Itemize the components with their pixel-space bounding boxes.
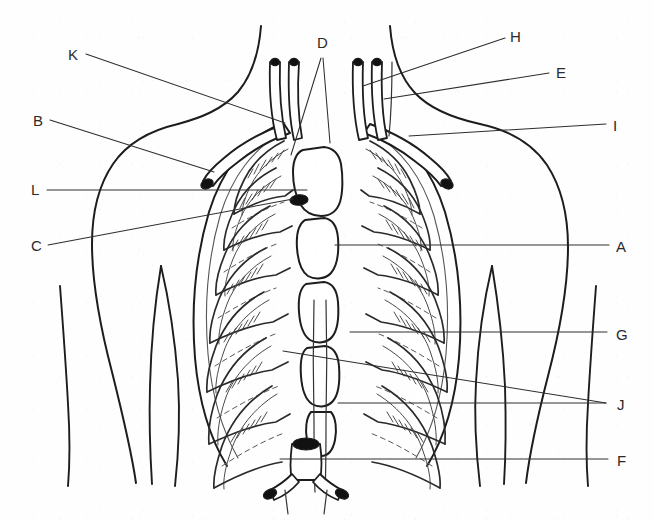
left-vessel-inner-lumen — [290, 58, 299, 65]
leader-line-h — [363, 38, 505, 86]
right-shoulder-outline — [480, 124, 568, 483]
left-outer-arm-edge — [60, 286, 70, 486]
label-k[interactable]: K — [68, 46, 78, 63]
label-e[interactable]: E — [556, 64, 566, 81]
leader-line-i — [409, 124, 606, 136]
anatomy-diagram: KBLCDHEIAGJF — [0, 0, 653, 520]
trachea-upper-border — [389, 62, 392, 136]
leader-line-d2 — [323, 58, 330, 143]
label-a[interactable]: A — [616, 238, 626, 255]
leader-line-k — [86, 54, 285, 123]
bronchial-trunk-lumen — [293, 438, 319, 450]
label-h[interactable]: H — [510, 28, 521, 45]
neck-right-outline — [390, 26, 480, 124]
right-arm-inner-line — [475, 266, 492, 486]
sternum-body-mid — [299, 282, 339, 342]
sternum-body-upper — [297, 218, 338, 278]
right-vessel-inner — [353, 62, 368, 140]
thorax-illustration: KBLCDHEIAGJF — [0, 0, 653, 520]
label-c[interactable]: C — [31, 237, 42, 254]
left-vessel-inner — [289, 62, 302, 140]
neck-left-outline — [178, 26, 261, 124]
left-shoulder-outline — [92, 124, 178, 483]
label-j[interactable]: J — [617, 396, 625, 413]
right-outer-arm-edge — [587, 286, 597, 486]
right-vessel-outer-lumen — [373, 58, 382, 65]
right-vessel-inner-lumen — [354, 58, 363, 65]
left-vessel-outer-lumen — [271, 58, 280, 65]
label-i[interactable]: I — [613, 117, 617, 134]
leader-line-b — [50, 120, 214, 172]
label-d[interactable]: D — [317, 34, 328, 51]
right-arm-inner-line-2 — [492, 266, 506, 484]
left-arm-inner-line — [161, 266, 179, 486]
label-l[interactable]: L — [31, 181, 40, 198]
sternum-group — [290, 147, 343, 456]
left-arm-inner-line-2 — [150, 266, 161, 484]
label-g[interactable]: G — [616, 326, 628, 343]
label-f[interactable]: F — [617, 452, 626, 469]
label-b[interactable]: B — [33, 112, 43, 129]
